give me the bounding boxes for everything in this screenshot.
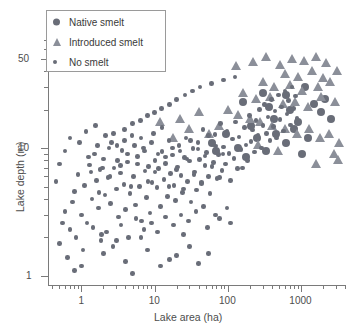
tick-mark [263,285,264,289]
data-point [278,99,288,108]
data-point [114,238,119,243]
data-point [170,146,175,151]
data-point [185,179,190,184]
data-point [307,66,317,75]
data-point [63,149,68,154]
data-point [232,156,237,161]
data-point [91,225,96,230]
data-point [234,144,242,152]
tick-mark [143,285,144,289]
data-point [149,221,154,226]
data-point [119,223,124,228]
data-point [109,140,114,145]
data-point [282,139,290,147]
data-point [160,149,165,154]
data-point [273,109,278,114]
data-point [177,143,182,148]
data-point [180,190,185,195]
data-point [160,125,165,130]
tick-mark [177,285,178,289]
data-point [174,97,179,102]
data-point [303,102,313,111]
data-point [194,107,204,116]
data-point [174,253,179,258]
data-point [79,264,84,269]
data-point [231,61,241,70]
data-point [286,98,291,103]
y-tick-label: 1 [26,271,32,281]
legend-box: Native smelt Introduced smelt No smelt [46,10,166,72]
tick-mark [216,285,217,289]
data-point [242,153,250,161]
tick-mark [44,199,48,200]
data-point [217,175,222,180]
data-point [79,213,84,218]
tick-mark [41,276,48,277]
data-point [168,171,173,176]
data-point [57,162,62,167]
data-point [153,170,158,175]
data-point [239,147,244,152]
data-point [267,121,277,130]
data-point [114,187,119,192]
data-point [128,191,133,196]
data-point [244,143,249,148]
data-point [84,129,89,134]
data-point [123,207,128,212]
data-point [209,81,214,86]
data-point [285,112,290,117]
data-point [268,138,273,143]
tick-mark [41,148,48,149]
data-point [152,110,157,115]
tick-mark [52,285,53,289]
data-point [77,140,82,145]
data-point [111,131,116,136]
data-point [269,97,274,102]
data-point [132,143,137,148]
data-point [209,142,214,147]
data-point [98,167,103,172]
data-point [155,185,160,190]
data-point [70,200,75,205]
data-point [158,204,163,209]
tick-mark [345,285,346,289]
data-point [274,136,279,141]
data-point [321,95,329,103]
tick-mark [272,285,273,289]
data-point [298,150,306,158]
data-point [151,131,156,136]
data-point [288,123,293,128]
data-point [129,184,134,189]
data-point [141,146,146,151]
tick-mark [155,285,156,292]
data-point [155,117,165,126]
data-point [199,181,204,186]
data-point [94,178,99,183]
native-smelt-marker-icon [53,19,60,26]
tick-mark [44,176,48,177]
data-point [253,140,263,149]
data-point [313,82,323,91]
data-point [167,184,172,189]
data-point [192,172,197,177]
data-point [265,92,275,101]
data-point [290,85,295,90]
data-point [168,133,178,142]
data-point [197,157,202,162]
data-point [330,97,340,106]
data-point [259,146,264,151]
tick-mark [44,168,48,169]
data-point [325,77,335,86]
tick-mark [323,285,324,289]
data-point [199,180,204,185]
legend-item-no-smelt: No smelt [47,52,167,72]
data-point [179,173,184,178]
data-point [143,169,148,174]
data-point [118,163,123,168]
data-point [194,209,199,214]
data-point [146,164,151,169]
data-point [54,179,59,184]
data-point [315,133,325,142]
data-point [181,232,186,237]
data-point [149,140,154,145]
